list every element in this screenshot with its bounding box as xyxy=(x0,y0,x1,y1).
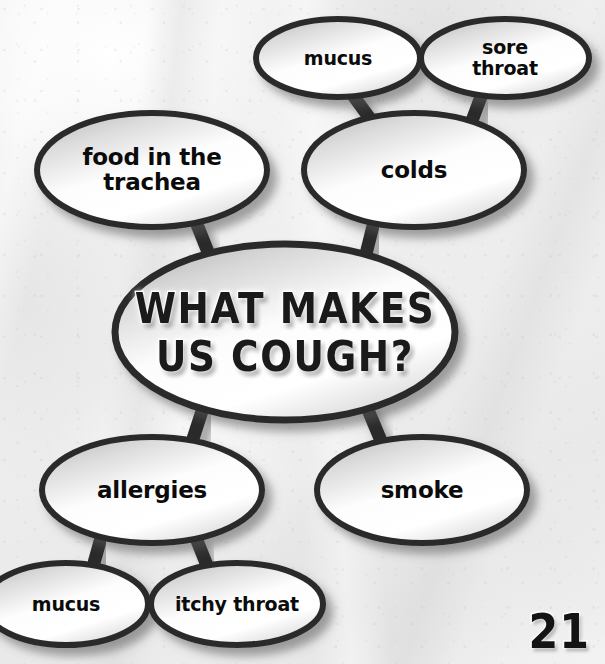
concept-map-diagram xyxy=(0,0,605,664)
node-ellipse-smoke[interactable] xyxy=(317,437,527,543)
node-ellipse-itchy-throat[interactable] xyxy=(151,563,323,645)
node-ellipse-mucus-bottom[interactable] xyxy=(0,563,148,645)
node-ellipse-trachea[interactable] xyxy=(37,113,267,227)
worksheet-page: mucussore throatfood in the tracheacolds… xyxy=(0,0,605,664)
node-ellipse-colds[interactable] xyxy=(304,113,524,227)
page-number: 21 xyxy=(528,604,590,660)
node-ellipse-mucus-top[interactable] xyxy=(256,19,420,97)
node-ellipse-allergies[interactable] xyxy=(42,437,262,543)
node-layer xyxy=(0,19,589,645)
node-ellipse-sore-throat[interactable] xyxy=(421,19,589,97)
node-ellipse-center[interactable] xyxy=(115,244,455,420)
